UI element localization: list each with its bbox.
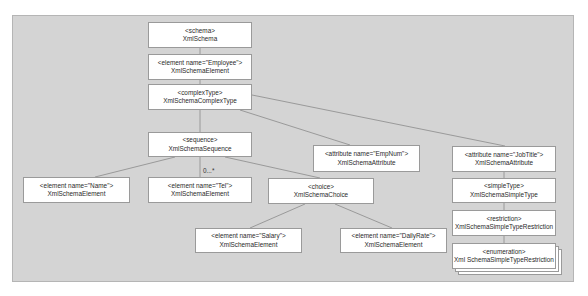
complextype-node: <complexType> XmlSchemaComplexType <box>148 84 252 110</box>
node-class: XmlSchemaAttribute <box>475 159 533 168</box>
node-class: XmlSchemaElement <box>220 241 278 250</box>
node-tag: <complexType> <box>177 89 222 98</box>
node-tag: <attribute name="JobTitle"> <box>465 151 544 160</box>
node-class: XmlSchemaChoice <box>294 191 348 200</box>
node-tag: <element name="Tel"> <box>168 182 232 191</box>
multiplicity-label: 0...* <box>203 167 214 174</box>
node-tag: <element name="Employee"> <box>158 59 243 68</box>
schema-node: <schema> XmlSchema <box>148 22 252 48</box>
tel-element-node: <element name="Tel"> XmlSchemaElement <box>148 177 252 203</box>
node-tag: <simpleType> <box>484 182 524 191</box>
node-class: XmlSchemaElement <box>171 190 229 199</box>
empnum-attribute-node: <attribute name="EmpNum"> XmlSchemaAttri… <box>313 145 420 172</box>
node-tag: <element name="Salary"> <box>211 232 285 241</box>
node-tag: <element name="DailyRate"> <box>352 232 436 241</box>
node-tag: <restriction> <box>486 215 521 224</box>
name-element-node: <element name="Name"> XmlSchemaElement <box>23 177 130 203</box>
node-class: XmlSchemaAttribute <box>337 159 395 168</box>
jobtitle-attribute-node: <attribute name="JobTitle"> XmlSchemaAtt… <box>452 146 556 172</box>
node-class: XmlSchemaElement <box>48 190 106 199</box>
dailyrate-element-node: <element name="DailyRate"> XmlSchemaElem… <box>340 228 447 253</box>
node-tag: <element name="Name"> <box>40 182 113 191</box>
restriction-node: <restriction> XmlSchemaSimpleTypeRestric… <box>452 210 556 236</box>
node-class: XmlSchemaSimpleType <box>470 191 538 200</box>
node-class: XmlSchemaSimpleTypeRestriction <box>455 223 553 232</box>
node-tag: <enumeration> <box>483 248 526 257</box>
salary-element-node: <element name="Salary"> XmlSchemaElement <box>195 228 302 253</box>
choice-node: <choice> XmlSchemaChoice <box>268 178 374 204</box>
node-class: XmlSchemaElement <box>171 67 229 76</box>
enumeration-node: <enumeration> Xml SchemaSimpleTypeRestri… <box>452 243 556 269</box>
node-class: Xml SchemaSimpleTypeRestriction <box>454 256 554 265</box>
node-tag: <sequence> <box>182 136 217 145</box>
node-class: XmlSchemaSequence <box>168 145 231 154</box>
simpletype-node: <simpleType> XmlSchemaSimpleType <box>452 178 556 203</box>
node-tag: <schema> <box>185 27 215 36</box>
node-class: XmlSchemaComplexType <box>163 97 237 106</box>
node-tag: <attribute name="EmpNum"> <box>325 150 408 159</box>
employee-element-node: <element name="Employee"> XmlSchemaEleme… <box>148 54 252 80</box>
node-class: XmlSchemaElement <box>365 241 423 250</box>
node-tag: <choice> <box>308 183 334 192</box>
node-class: XmlSchema <box>183 35 217 44</box>
sequence-node: <sequence> XmlSchemaSequence <box>148 132 252 157</box>
